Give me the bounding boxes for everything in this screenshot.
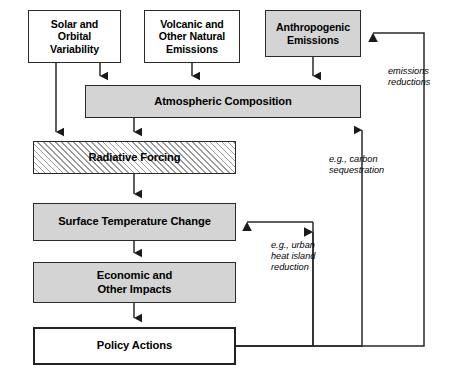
node-surface-temperature-change: Surface Temperature Change [33,203,236,241]
node-label: Economic and Other Impacts [97,269,172,295]
node-label: Atmospheric Composition [154,95,292,108]
node-volcanic-natural-emissions: Volcanic and Other Natural Emissions [144,10,240,63]
climate-flow-diagram: Solar and Orbital Variability Volcanic a… [0,0,449,380]
node-economic-other-impacts: Economic and Other Impacts [33,262,236,303]
node-label: Anthropogenic Emissions [276,21,350,46]
node-label: Policy Actions [97,339,172,352]
node-label: Surface Temperature Change [58,215,211,228]
node-atmospheric-composition: Atmospheric Composition [85,85,361,118]
node-label: Radiative Forcing [88,151,180,164]
node-solar-orbital-variability: Solar and Orbital Variability [28,10,121,63]
annotation-urban-heat-island-reduction: e.g., urban heat island reduction [271,240,337,274]
node-anthropogenic-emissions: Anthropogenic Emissions [265,10,361,57]
node-label: Solar and Orbital Variability [50,18,99,56]
node-label: Volcanic and Other Natural Emissions [159,18,225,56]
annotation-carbon-sequestration: e.g., carbon sequestration [329,154,399,176]
node-policy-actions: Policy Actions [33,327,236,365]
annotation-emissions-reductions: emissions reductions [388,66,448,88]
node-radiative-forcing: Radiative Forcing [33,141,236,174]
